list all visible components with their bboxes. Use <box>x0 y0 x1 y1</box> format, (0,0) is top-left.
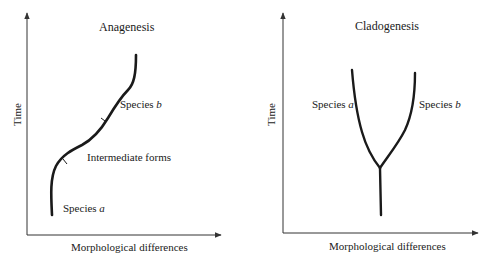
anagenesis-species-b-label: Species b <box>120 99 162 110</box>
species-b-letter: b <box>156 98 162 110</box>
anagenesis-intermediate-forms-label: Intermediate forms <box>87 152 171 163</box>
intermediate-tick-lower <box>63 159 67 164</box>
anagenesis-x-axis-label: Morphological differences <box>71 242 188 253</box>
cladogenesis-y-axis-label: Time <box>266 102 277 128</box>
cladogenesis-stem <box>380 168 381 215</box>
species-b-prefix: Species <box>419 98 455 110</box>
anagenesis-axes <box>27 13 221 235</box>
species-a-prefix: Species <box>312 98 348 110</box>
cladogenesis-title: Cladogenesis <box>355 20 419 32</box>
species-b-prefix: Species <box>120 98 156 110</box>
cladogenesis-species-b-label: Species b <box>419 99 461 110</box>
species-a-letter: a <box>348 98 354 110</box>
anagenesis-lineage-curve <box>51 55 136 215</box>
cladogenesis-species-a-label: Species a <box>312 99 354 110</box>
anagenesis-title: Anagenesis <box>99 21 154 33</box>
diagram-canvas <box>0 0 483 259</box>
species-a-prefix: Species <box>63 202 99 214</box>
species-a-letter: a <box>99 202 105 214</box>
cladogenesis-branch-a <box>352 70 380 168</box>
anagenesis-y-axis-label: Time <box>12 102 23 128</box>
cladogenesis-x-axis-label: Morphological differences <box>329 241 446 252</box>
anagenesis-species-a-label: Species a <box>63 203 105 214</box>
species-b-letter: b <box>455 98 461 110</box>
intermediate-tick-upper <box>101 118 105 121</box>
cladogenesis-branch-b <box>380 73 415 168</box>
